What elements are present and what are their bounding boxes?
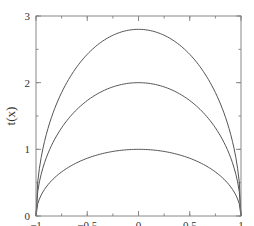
minor-ticks (36, 16, 241, 216)
y-tick-label: 0 (25, 210, 31, 222)
series-group (36, 29, 241, 216)
series-line-curve-peak-2.8 (36, 29, 241, 216)
x-tick-label: 0.5 (183, 219, 197, 226)
x-tick-label: −1 (30, 219, 42, 226)
y-tick-labels: 0123 (25, 10, 31, 222)
plot-frame (36, 16, 241, 216)
series-line-curve-peak-1 (36, 149, 241, 216)
y-axis-label: t(x) (3, 107, 18, 126)
x-tick-label: 1 (238, 219, 244, 226)
y-tick-label: 3 (25, 10, 31, 22)
x-tick-label: 0 (136, 219, 142, 226)
y-tick-label: 2 (25, 77, 31, 89)
y-tick-label: 1 (25, 143, 31, 155)
chart: −1−0.500.51 0123 x/N t(x) (0, 0, 254, 226)
major-ticks (36, 16, 241, 216)
x-tick-label: −0.5 (77, 219, 97, 226)
x-tick-labels: −1−0.500.51 (30, 219, 244, 226)
